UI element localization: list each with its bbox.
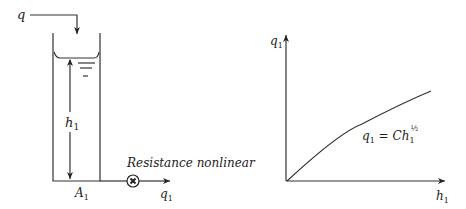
valve-icon <box>127 175 139 187</box>
flow-level-graph: q1 h1 q1 = Ch1½ <box>270 34 449 205</box>
area-label: A1 <box>74 186 89 202</box>
figure: q h1 A1 Resistance nonlinear q1 q1 h1 <box>0 0 466 209</box>
x-axis-label: h1 <box>436 189 449 205</box>
y-axis-label: q1 <box>270 34 283 50</box>
tank-diagram: q h1 A1 Resistance nonlinear q1 <box>17 7 256 203</box>
inflow-arrow <box>30 15 77 34</box>
inflow-label: q <box>17 7 25 22</box>
water-level-marker-icon <box>78 63 95 76</box>
equation-label: q1 = Ch1½ <box>362 124 418 145</box>
tank-walls <box>53 33 100 181</box>
water-surface <box>54 52 99 58</box>
resistance-label: Resistance nonlinear <box>126 156 256 170</box>
outflow-label: q1 <box>160 187 173 203</box>
level-label: h1 <box>65 115 79 132</box>
